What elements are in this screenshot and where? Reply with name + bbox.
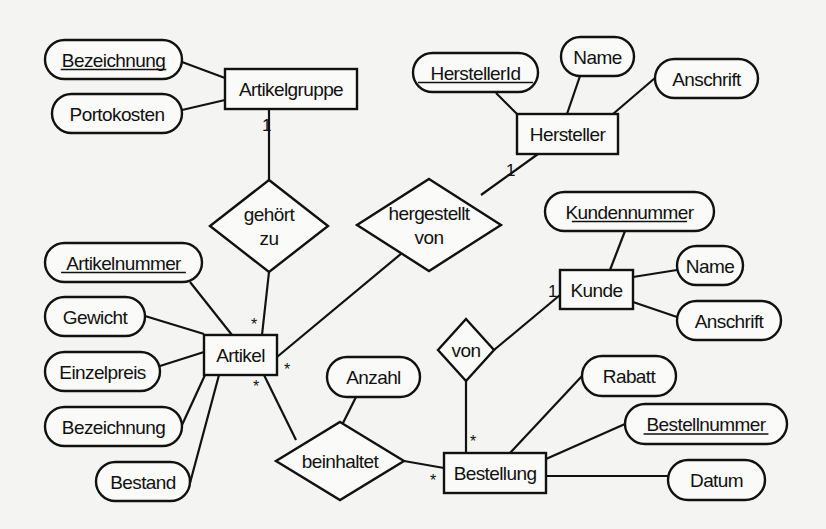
connector-line <box>145 316 204 334</box>
relationship-label: von <box>415 227 444 248</box>
connector-line <box>494 295 560 350</box>
er-diagram: ArtikelgruppeHerstellerKundeArtikelBeste… <box>0 0 826 529</box>
attribute-label: Rabatt <box>603 366 657 387</box>
entity-label: Artikelgruppe <box>239 79 343 100</box>
attribute-a_bestand[interactable]: Bestand <box>96 462 190 501</box>
entity-artikel[interactable]: Artikel <box>204 335 277 375</box>
connector-line <box>182 62 225 78</box>
connector-line <box>182 375 205 425</box>
attribute-k_anschrift[interactable]: Anschrift <box>677 301 781 340</box>
connector-line <box>190 282 232 335</box>
cardinality-one: 1 <box>506 161 515 180</box>
relationship-label: gehört <box>244 204 296 225</box>
entity-hersteller[interactable]: Hersteller <box>517 114 618 154</box>
cardinality-many: * <box>253 378 259 395</box>
attribute-b_bestellnummer[interactable]: Bestellnummer <box>625 404 787 444</box>
relationship-von[interactable]: von <box>438 319 494 381</box>
relationship-label: hergestellt <box>388 203 470 224</box>
attribute-label: Bezeichnung <box>62 417 165 438</box>
key-attribute-label: Kundennummer <box>566 202 695 223</box>
attribute-label: Bestand <box>110 472 176 493</box>
attribute-b_datum[interactable]: Datum <box>668 460 765 500</box>
attribute-label: Einzelpreis <box>59 362 145 383</box>
connector-line <box>496 93 517 114</box>
attribute-a_bezeichnung[interactable]: Bezeichnung <box>45 407 182 446</box>
cardinality-one: 1 <box>548 282 557 301</box>
attribute-b_rabatt[interactable]: Rabatt <box>582 356 676 396</box>
entity-label: Bestellung <box>454 463 537 484</box>
connector-line <box>510 376 582 453</box>
attribute-a_gewicht[interactable]: Gewicht <box>45 297 145 336</box>
connector-line <box>190 375 219 483</box>
entity-bestellung[interactable]: Bestellung <box>444 453 546 493</box>
connector-line <box>610 231 625 270</box>
connector-line <box>613 78 655 114</box>
cardinality-labels: 111***** <box>251 116 557 489</box>
attribute-ag_portokosten[interactable]: Portokosten <box>52 94 182 133</box>
cardinality-one: 1 <box>262 116 271 135</box>
key-attribute-label: HerstellerId <box>431 63 521 84</box>
attribute-ag_bezeichnung[interactable]: Bezeichnung <box>45 40 182 79</box>
connector-line <box>404 461 444 468</box>
attribute-a_artikelnummer[interactable]: Artikelnummer <box>45 243 202 282</box>
attribute-label: Name <box>686 256 734 277</box>
relationship-gehoert_zu[interactable]: gehörtzu <box>210 180 328 272</box>
attribute-h_herstellerid[interactable]: HerstellerId <box>413 53 538 92</box>
connector-line <box>567 76 580 114</box>
connector-line <box>182 100 225 110</box>
attribute-label: Anschrift <box>672 69 742 90</box>
attribute-label: Datum <box>690 470 743 491</box>
connector-line <box>262 272 269 335</box>
attribute-h_anschrift[interactable]: Anschrift <box>655 59 758 98</box>
entity-kunde[interactable]: Kunde <box>560 270 633 309</box>
entity-label: Kunde <box>571 280 623 301</box>
connector-line <box>546 424 625 459</box>
connector-line <box>160 352 204 366</box>
connector-line <box>633 270 677 277</box>
entity-artikelgruppe[interactable]: Artikelgruppe <box>225 69 357 109</box>
attribute-label: Anzahl <box>346 367 401 388</box>
relationship-label: von <box>452 340 481 361</box>
cardinality-many: * <box>284 361 290 378</box>
attribute-label: Anschrift <box>695 311 765 332</box>
connector-line <box>342 397 356 425</box>
connector-line <box>633 302 677 317</box>
attribute-label: Gewicht <box>63 307 129 328</box>
attribute-k_name[interactable]: Name <box>677 246 743 285</box>
attribute-a_einzelpreis[interactable]: Einzelpreis <box>45 352 160 391</box>
cardinality-many: * <box>430 472 436 489</box>
relationship-beinhaltet[interactable]: beinhaltet <box>276 422 404 500</box>
attribute-label: Portokosten <box>70 104 165 125</box>
cardinality-many: * <box>251 316 257 333</box>
attribute-h_name[interactable]: Name <box>561 37 634 76</box>
relationship-hergestellt_von[interactable]: hergestelltvon <box>357 179 501 271</box>
attribute-ovals: BezeichnungPortokostenHerstellerIdNameAn… <box>45 37 787 501</box>
attribute-label: Name <box>573 47 621 68</box>
relationship-label: zu <box>260 228 279 249</box>
key-attribute-label: Bestellnummer <box>647 414 767 435</box>
entity-label: Hersteller <box>530 124 607 145</box>
cardinality-many: * <box>470 433 476 450</box>
connector-line <box>277 253 402 357</box>
key-attribute-label: Bezeichnung <box>62 50 165 71</box>
key-attribute-label: Artikelnummer <box>66 253 182 274</box>
connector-line <box>264 375 296 440</box>
attribute-r_anzahl[interactable]: Anzahl <box>327 357 420 397</box>
relationship-label: beinhaltet <box>302 451 380 472</box>
entity-label: Artikel <box>216 345 265 366</box>
attribute-k_kundennummer[interactable]: Kundennummer <box>545 192 714 231</box>
